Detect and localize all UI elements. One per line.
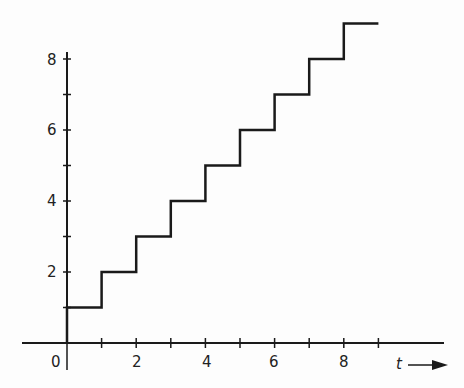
x-tick-label-6: 6 bbox=[269, 353, 279, 371]
x-tick-label-2: 2 bbox=[132, 353, 142, 371]
y-tick-label-8: 8 bbox=[47, 51, 57, 69]
y-tick-label-2: 2 bbox=[47, 263, 57, 281]
step-series bbox=[67, 24, 378, 344]
arrow-right-icon bbox=[408, 360, 448, 370]
x-tick-label-4: 4 bbox=[202, 353, 212, 371]
origin-label: 0 bbox=[51, 353, 61, 371]
x-tick-label-8: 8 bbox=[339, 353, 349, 371]
step-chart: 0 2 4 6 8 2 4 6 8 t bbox=[0, 0, 464, 388]
x-axis-label: t bbox=[396, 355, 403, 373]
y-tick-label-4: 4 bbox=[47, 192, 57, 210]
y-tick-label-6: 6 bbox=[47, 121, 57, 139]
